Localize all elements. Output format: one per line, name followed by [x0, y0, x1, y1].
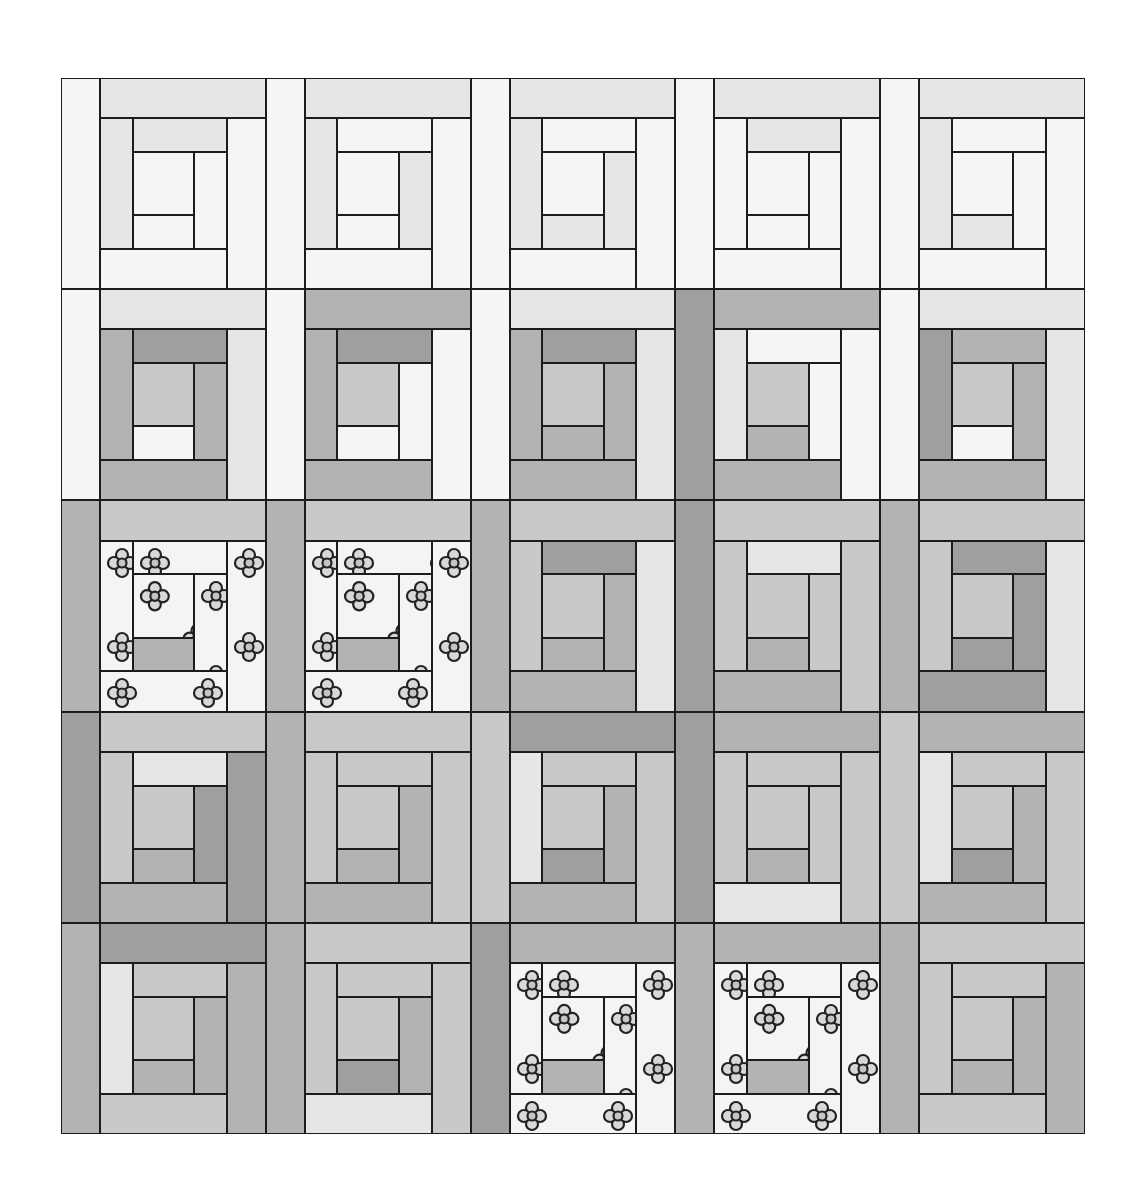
quilt-center [952, 152, 1013, 215]
quilt-strip [542, 752, 636, 786]
quilt-strip [1013, 363, 1046, 460]
quilt-block [61, 78, 266, 289]
quilt-strip [337, 426, 398, 460]
quilt-strip [841, 329, 880, 500]
quilt-center [133, 997, 194, 1060]
quilt-strip [305, 712, 471, 752]
quilt-strip [747, 963, 841, 997]
quilt-strip [194, 574, 227, 671]
quilt-strip [510, 500, 676, 540]
quilt-strip [510, 329, 543, 460]
quilt-center [747, 786, 808, 849]
quilt-strip [714, 500, 880, 540]
quilt-strip [305, 289, 471, 329]
quilt-strip [542, 638, 603, 672]
quilt-strip [133, 118, 227, 152]
quilt-block [675, 712, 880, 923]
quilt-strip [471, 712, 510, 923]
quilt-strip [100, 671, 227, 711]
quilt-strip [337, 541, 431, 575]
quilt-strip [227, 752, 266, 923]
quilt-strip [510, 289, 676, 329]
quilt-strip [227, 963, 266, 1134]
quilt-strip [510, 460, 637, 500]
quilt-strip [809, 152, 842, 249]
quilt-strip [1013, 574, 1046, 671]
quilt-strip [919, 329, 952, 460]
quilt-strip [880, 78, 919, 289]
quilt-strip [305, 500, 471, 540]
quilt-strip [194, 152, 227, 249]
quilt-strip [399, 574, 432, 671]
quilt-strip [305, 1094, 432, 1134]
quilt-strip [919, 460, 1046, 500]
quilt-strip [747, 849, 808, 883]
quilt-strip [399, 786, 432, 883]
quilt-strip [952, 963, 1046, 997]
quilt-strip [194, 363, 227, 460]
quilt-strip [604, 786, 637, 883]
quilt-strip [471, 78, 510, 289]
quilt-block [880, 500, 1085, 711]
quilt-block [266, 78, 471, 289]
quilt-strip [714, 118, 747, 249]
quilt-strip [432, 118, 471, 289]
quilt-strip [471, 500, 510, 711]
quilt-diagram [61, 78, 1085, 1134]
quilt-strip [100, 78, 266, 118]
quilt-center [133, 363, 194, 426]
quilt-strip [337, 963, 431, 997]
quilt-strip [952, 329, 1046, 363]
quilt-center [133, 152, 194, 215]
quilt-strip [714, 541, 747, 672]
quilt-strip [919, 963, 952, 1094]
quilt-block [880, 712, 1085, 923]
quilt-strip [1046, 329, 1085, 500]
quilt-strip [337, 752, 431, 786]
quilt-strip [841, 118, 880, 289]
quilt-strip [636, 752, 675, 923]
quilt-strip [714, 460, 841, 500]
quilt-center [952, 786, 1013, 849]
quilt-strip [305, 963, 338, 1094]
quilt-center [337, 786, 398, 849]
quilt-strip [194, 997, 227, 1094]
quilt-strip [100, 712, 266, 752]
quilt-strip [675, 923, 714, 1134]
quilt-strip [880, 500, 919, 711]
quilt-strip [305, 249, 432, 289]
quilt-strip [100, 752, 133, 883]
quilt-center [542, 152, 603, 215]
quilt-block [61, 923, 266, 1134]
quilt-strip [542, 963, 636, 997]
quilt-strip [675, 289, 714, 500]
quilt-strip [227, 329, 266, 500]
quilt-strip [809, 786, 842, 883]
quilt-strip [919, 249, 1046, 289]
quilt-strip [510, 883, 637, 923]
quilt-center [952, 997, 1013, 1060]
quilt-strip [305, 329, 338, 460]
quilt-strip [100, 883, 227, 923]
quilt-strip [100, 118, 133, 249]
quilt-strip [305, 541, 338, 672]
quilt-strip [305, 923, 471, 963]
quilt-strip [1013, 152, 1046, 249]
quilt-center [337, 152, 398, 215]
quilt-strip [714, 671, 841, 711]
quilt-strip [305, 78, 471, 118]
quilt-strip [604, 363, 637, 460]
quilt-strip [61, 923, 100, 1134]
quilt-strip [952, 118, 1046, 152]
quilt-center [747, 363, 808, 426]
quilt-strip [133, 1060, 194, 1094]
quilt-strip [747, 329, 841, 363]
quilt-strip [1046, 963, 1085, 1134]
quilt-strip [194, 786, 227, 883]
quilt-block [675, 289, 880, 500]
quilt-strip [305, 671, 432, 711]
quilt-strip [714, 883, 841, 923]
quilt-strip [399, 363, 432, 460]
quilt-strip [266, 712, 305, 923]
quilt-strip [227, 118, 266, 289]
